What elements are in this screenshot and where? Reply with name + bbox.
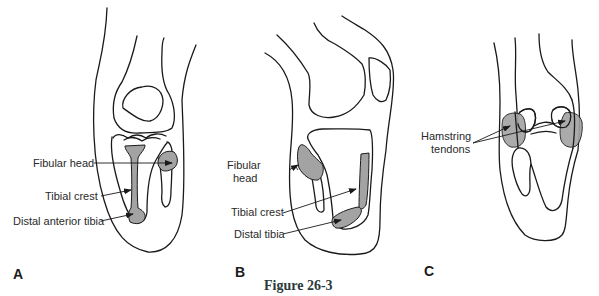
label-distal-anterior-tibia: Distal anterior tibia	[13, 215, 104, 228]
label-fibular-b-line1: Fibular	[227, 159, 261, 172]
panel-c-drawing	[473, 34, 582, 241]
panel-a-drawing	[94, 8, 196, 252]
label-fibular-head-a: Fibular head	[33, 157, 94, 170]
label-tibial-crest-b: Tibial crest	[231, 206, 284, 219]
label-tendons-line2: tendons	[431, 143, 470, 156]
label-head-b-line2: head	[233, 172, 257, 185]
label-hamstring-line1: Hamstring	[421, 130, 471, 143]
figure-drawing	[0, 0, 599, 296]
label-tibial-crest-a: Tibial crest	[45, 190, 98, 203]
panel-letter-a: A	[13, 266, 23, 282]
panel-b-drawing	[265, 16, 394, 254]
panel-letter-b: B	[235, 264, 245, 280]
panel-letter-c: C	[424, 263, 434, 279]
figure-caption: Figure 26-3	[264, 278, 333, 294]
label-distal-tibia: Distal tibia	[234, 228, 285, 241]
